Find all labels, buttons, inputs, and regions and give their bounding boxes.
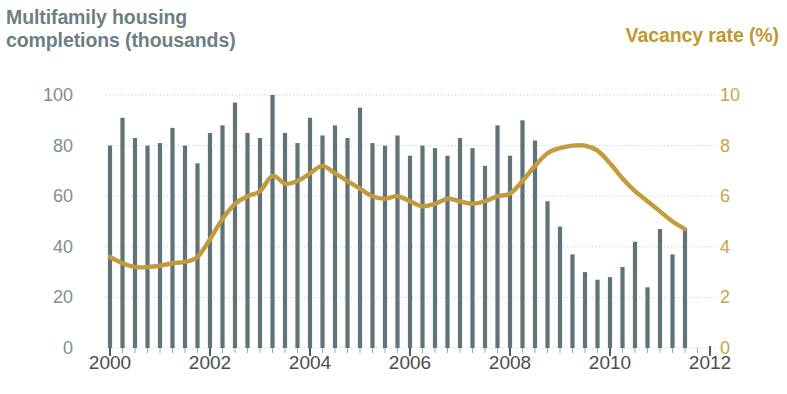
bar [670,254,674,348]
bar [683,229,687,348]
bar [158,143,162,348]
bar [583,272,587,348]
bar [420,146,424,348]
bar [370,143,374,348]
bar [658,229,662,348]
bar [533,141,537,348]
bar [495,125,499,348]
bar [445,156,449,348]
bar [483,166,487,348]
bar [408,156,412,348]
bar [570,254,574,348]
bar [133,138,137,348]
bar [308,118,312,348]
bar [520,120,524,348]
bar [333,125,337,348]
bar [258,138,262,348]
bar [608,277,612,348]
bar [358,108,362,348]
bar [270,95,274,348]
bar [283,133,287,348]
bar [183,146,187,348]
bar [633,242,637,348]
chart-plot-area [0,0,787,394]
bar [220,125,224,348]
bar [245,133,249,348]
bar [595,280,599,348]
bar [558,227,562,348]
bar [383,146,387,348]
bar [620,267,624,348]
bar [145,146,149,348]
bar [433,148,437,348]
bar [120,118,124,348]
chart-figure: Multifamily housing completions (thousan… [0,0,787,394]
bar [545,201,549,348]
bar [345,138,349,348]
bar [458,138,462,348]
bar [508,156,512,348]
bar [170,128,174,348]
bar [645,287,649,348]
bar [395,135,399,348]
bar [108,146,112,348]
bar [295,143,299,348]
bar [470,148,474,348]
bar [233,103,237,348]
